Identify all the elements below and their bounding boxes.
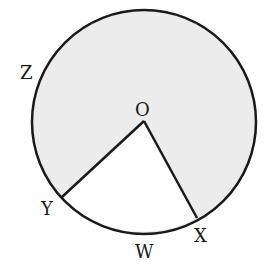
circle-diagram: O Z Y W X <box>0 0 264 272</box>
label-y: Y <box>40 198 54 219</box>
label-z: Z <box>20 62 33 83</box>
label-o: O <box>135 99 150 120</box>
label-x: X <box>194 225 207 246</box>
label-w: W <box>135 241 154 262</box>
